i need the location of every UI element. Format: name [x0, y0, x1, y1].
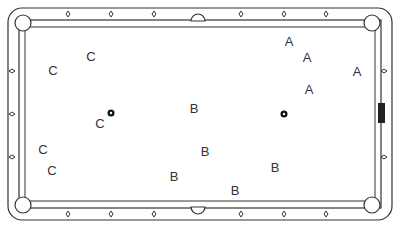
- ball-position-label: A: [303, 51, 312, 64]
- ball-position-label: C: [48, 64, 57, 77]
- ball-position-label: A: [353, 65, 362, 78]
- ball-position-label: C: [38, 143, 47, 156]
- ball-position-label: B: [271, 161, 280, 174]
- ball-position-label: C: [95, 117, 104, 130]
- ball-position-label: B: [231, 184, 240, 197]
- ball-position-label: C: [86, 50, 95, 63]
- ball-position-label: C: [47, 164, 56, 177]
- ball-position-label: B: [190, 102, 199, 115]
- right-rail-marker: [378, 103, 385, 123]
- ball-position-label: A: [285, 35, 294, 48]
- ball-position-label: B: [201, 145, 210, 158]
- ball-position-label: A: [305, 83, 314, 96]
- ball-position-label: B: [170, 170, 179, 183]
